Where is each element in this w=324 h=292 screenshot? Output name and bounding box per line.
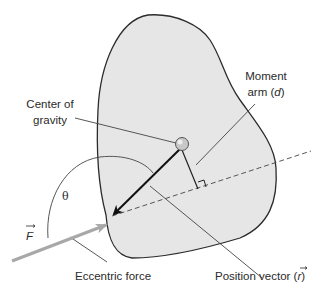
label-moment-arm-2: arm (d) xyxy=(247,86,284,98)
diagram-canvas: Center of gravity Moment arm (d) θ F Ecc… xyxy=(0,0,324,292)
torque-diagram: Center of gravity Moment arm (d) θ F Ecc… xyxy=(0,0,324,292)
label-center-of-gravity-1: Center of xyxy=(26,98,74,110)
leader-eccentric-force xyxy=(70,237,107,262)
label-moment-arm-1: Moment xyxy=(245,70,287,82)
irregular-body xyxy=(97,15,276,258)
center-of-gravity-marker xyxy=(176,138,189,151)
label-position-vector: Position vector (r) xyxy=(215,270,305,282)
center-of-gravity-highlight xyxy=(178,140,183,145)
label-theta: θ xyxy=(62,190,69,203)
label-force: F xyxy=(26,230,34,242)
label-eccentric-force: Eccentric force xyxy=(75,270,151,282)
label-center-of-gravity-2: gravity xyxy=(33,114,67,126)
